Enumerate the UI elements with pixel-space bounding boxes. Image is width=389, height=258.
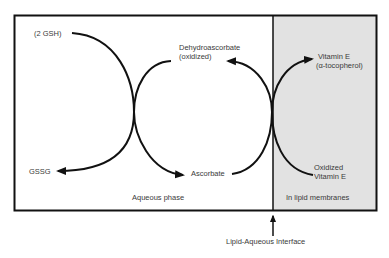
- dehydroascorbate-oxidized-label: (oxidized): [179, 52, 212, 61]
- dehydroascorbate-label: Dehydroascorbate: [179, 43, 240, 52]
- oxidized-label: Oxidized: [314, 163, 343, 172]
- vitamin-e-label: Vitamin E: [318, 52, 350, 61]
- lipid-aqueous-interface-label: Lipid-Aqueous Interface: [226, 237, 305, 246]
- lipid-membranes-label: In lipid membranes: [286, 193, 350, 202]
- ascorbate-to-crossing-curve: [134, 61, 183, 175]
- alpha-tocopherol-label: (α-tocopherol): [316, 61, 363, 70]
- gsh-label: (2 GSH): [34, 29, 62, 38]
- glutathione-curve: [58, 33, 134, 171]
- antioxidant-cycle-diagram: (2 GSH) GSSG Dehydroascorbate (oxidized)…: [0, 0, 389, 258]
- gssg-label: GSSG: [29, 167, 51, 176]
- aqueous-phase-label: Aqueous phase: [132, 193, 184, 202]
- lipid-region: [273, 15, 377, 211]
- ascorbate-label: Ascorbate: [191, 169, 225, 178]
- oxidized-vitamin-e-label: Vitamin E: [314, 172, 346, 181]
- dehydroascorbate-curve: [228, 61, 272, 174]
